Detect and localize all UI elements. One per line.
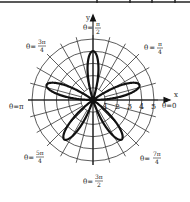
- svg-text:4: 4: [155, 158, 159, 165]
- angle-label-3pi-over-2: θ= 3π 2: [83, 173, 103, 188]
- y-axis-label: y: [85, 14, 90, 22]
- svg-text:θ=: θ=: [144, 44, 155, 52]
- svg-text:θ=: θ=: [83, 24, 93, 32]
- svg-text:4: 4: [38, 157, 42, 164]
- svg-text:θ=: θ=: [26, 43, 36, 51]
- angle-label-0: θ=0: [162, 102, 177, 110]
- angle-label-5pi-over-4: θ= 5π 4: [24, 149, 44, 164]
- svg-text:7π: 7π: [153, 150, 161, 157]
- angle-label-3pi-over-4: θ= 3π 4: [26, 38, 46, 53]
- table-border-fragment: [0, 0, 190, 3]
- tick-4: 4: [139, 102, 144, 111]
- svg-text:θ=: θ=: [140, 155, 150, 163]
- tick-2: 2: [115, 102, 120, 111]
- svg-text:2: 2: [97, 181, 101, 188]
- angle-label-pi-over-4: θ= π 4: [144, 40, 163, 55]
- svg-text:2: 2: [96, 28, 100, 35]
- svg-text:3π: 3π: [38, 38, 46, 45]
- svg-text:θ=0: θ=0: [162, 102, 177, 110]
- angle-label-pi-over-2: θ= π 2: [83, 20, 101, 35]
- x-axis-label: x: [174, 91, 178, 99]
- svg-text:4: 4: [158, 48, 162, 55]
- svg-text:θ=: θ=: [83, 178, 93, 186]
- angle-label-pi: θ=π: [9, 103, 24, 111]
- tick-3: 3: [127, 102, 132, 111]
- svg-text:θ=: θ=: [24, 154, 34, 162]
- angle-label-7pi-over-4: θ= 7π 4: [140, 150, 161, 165]
- polar-rose-chart: 1 2 3 4 5 y x θ=0 θ= π 4 θ= π 2 θ= 3π 4 …: [0, 0, 190, 202]
- svg-text:4: 4: [40, 46, 44, 53]
- svg-text:π: π: [158, 40, 162, 47]
- svg-text:θ=π: θ=π: [9, 103, 24, 111]
- svg-text:3π: 3π: [95, 173, 103, 180]
- svg-text:5π: 5π: [36, 149, 44, 156]
- svg-text:π: π: [96, 20, 100, 27]
- tick-1: 1: [103, 102, 108, 111]
- radial-tick-labels: 1 2 3 4 5: [103, 102, 156, 111]
- tick-5: 5: [151, 102, 156, 111]
